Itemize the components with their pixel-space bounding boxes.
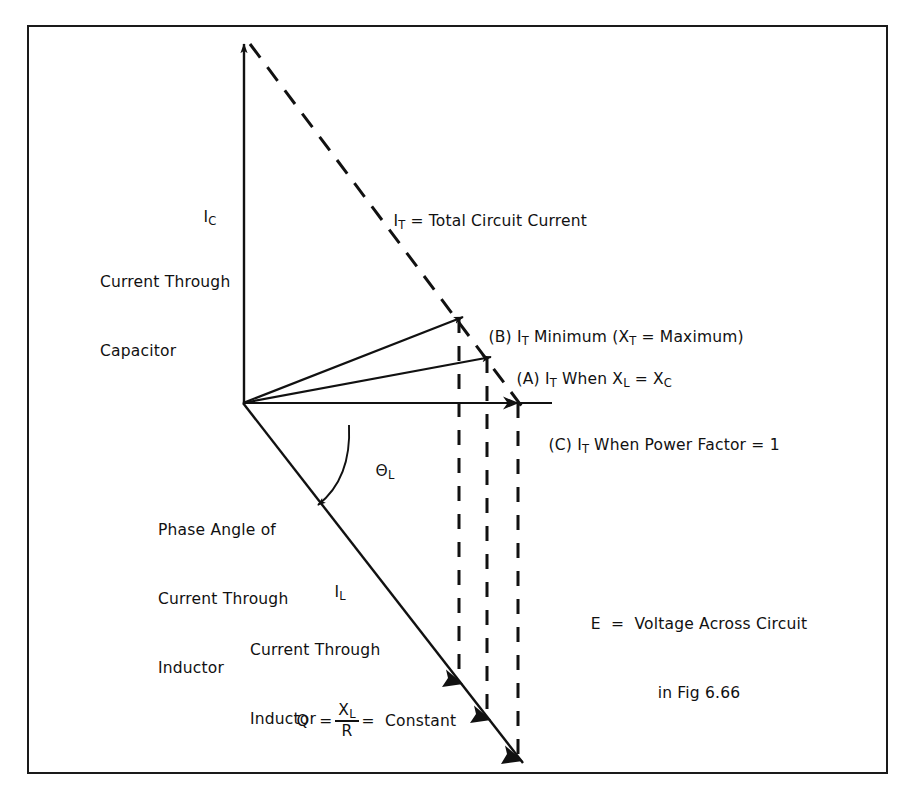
- phase-angle-arc: [318, 425, 349, 505]
- note-voltage-line1: E = Voltage Across Circuit: [583, 613, 815, 636]
- label-total-current: IT = Total Circuit Current: [373, 187, 587, 257]
- label-ic-caption-line2: Capacitor: [100, 340, 230, 363]
- vector-b-it-minimum: [243, 317, 463, 403]
- label-il-caption-line1: Current Through: [250, 639, 380, 662]
- label-phase-line1: Phase Angle of: [158, 519, 288, 542]
- label-c-unity-power-factor: (C) IT When Power Factor = 1: [528, 411, 780, 481]
- label-phase-angle-symbol: ΘL: [355, 437, 394, 507]
- label-ic-caption-line1: Current Through: [100, 271, 230, 294]
- formula-q-factor: Q =XLR= Constant: [276, 680, 456, 763]
- note-voltage-line2: in Fig 6.66: [583, 682, 815, 705]
- label-ic-caption: Current Through Capacitor: [100, 225, 230, 409]
- phasor-diagram-page: IC Current Through Capacitor IT = Total …: [0, 0, 915, 794]
- note-voltage-reference: E = Voltage Across Circuit in Fig 6.66: [583, 567, 815, 751]
- formula-q-numerator: XL: [335, 702, 358, 719]
- formula-q-denominator: R: [335, 723, 358, 739]
- formula-q-lhs: Q =: [297, 710, 333, 733]
- vector-a-it-resonance: [243, 357, 491, 403]
- formula-q-rhs: = Constant: [362, 710, 457, 733]
- formula-q-fraction: XLR: [335, 702, 358, 739]
- label-a-it-resonance: (A) IT When XL = XC: [496, 345, 672, 415]
